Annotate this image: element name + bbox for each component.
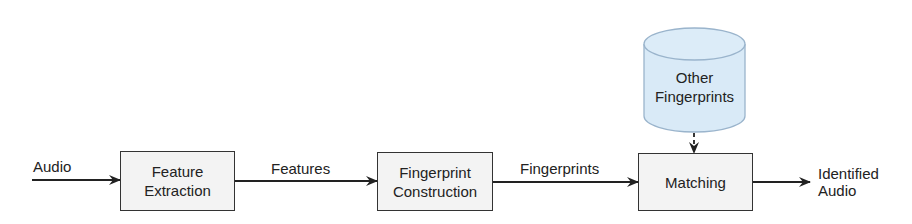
edge-label-features: Features xyxy=(271,160,330,178)
output-label-line2: Audio xyxy=(818,182,879,199)
fingerprint-construction-line2: Construction xyxy=(393,182,477,201)
output-label: Identified Audio xyxy=(818,165,879,199)
feature-extraction-line2: Extraction xyxy=(144,181,211,200)
node-feature-extraction: Feature Extraction xyxy=(120,151,235,211)
database-line1: Other xyxy=(644,68,745,87)
feature-extraction-line1: Feature xyxy=(144,162,211,181)
node-matching: Matching xyxy=(638,153,753,211)
input-label-audio: Audio xyxy=(33,158,71,176)
fingerprint-construction-line1: Fingerprint xyxy=(393,163,477,182)
matching-label: Matching xyxy=(665,173,726,192)
output-label-line1: Identified xyxy=(818,165,879,182)
node-fingerprint-construction: Fingerprint Construction xyxy=(377,152,493,211)
edge-label-fingerprints: Fingerprints xyxy=(520,160,599,178)
database-line2: Fingerprints xyxy=(644,87,745,106)
database-label: Other Fingerprints xyxy=(644,68,745,106)
